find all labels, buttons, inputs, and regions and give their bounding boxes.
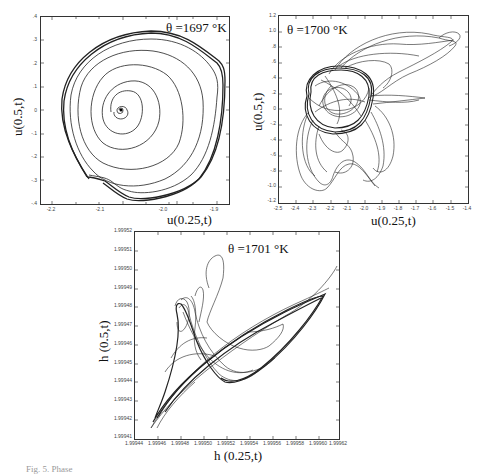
y-tick-label: -.4 <box>22 200 37 206</box>
y-tick-label: 1.99949 <box>102 284 132 290</box>
y-tick-label: 1.99942 <box>102 415 132 421</box>
y-tick-label: .3 <box>22 36 37 42</box>
x-tick-label: 1.99952 <box>217 440 235 446</box>
x-tick-label: 1.99950 <box>194 440 212 446</box>
y-axis-label: h (0.5,t) <box>96 320 112 362</box>
x-tick-label: -1.5 <box>446 205 455 211</box>
x-tick-label: -1.8 <box>394 205 403 211</box>
y-axis-label: u(0.5,t) <box>250 93 266 131</box>
x-tick-label: 1.99944 <box>125 440 143 446</box>
theta-label-1700: θ =1700 °K <box>287 22 348 38</box>
y-tick-label: 1.99943 <box>102 396 132 402</box>
y-tick-label: 1.99944 <box>102 377 132 383</box>
y-tick-label: -.2 <box>22 153 37 159</box>
x-tick-label: -1.4 <box>463 205 472 211</box>
theta-label-1697: θ =1697 °K <box>166 20 227 36</box>
phase-trajectory-1701 <box>135 232 339 439</box>
x-tick-label: -1.9 <box>377 205 386 211</box>
x-tick-label: 1.99958 <box>286 440 304 446</box>
x-tick-label: -2.5 <box>274 205 283 211</box>
y-tick-label: -.3 <box>22 177 37 183</box>
x-tick-label: -2.2 <box>47 206 56 212</box>
x-tick-label: 1.99948 <box>171 440 189 446</box>
y-tick-label: .1 <box>22 83 37 89</box>
x-axis-label: h (0.25,t) <box>214 448 262 464</box>
x-axis-label: u(0.25,t) <box>371 213 416 229</box>
y-tick-label: .2 <box>22 60 37 66</box>
y-tick-label: -.6 <box>259 151 276 157</box>
y-tick-label: 1.99948 <box>102 302 132 308</box>
y-tick-label: .4 <box>259 74 276 80</box>
y-tick-label: .8 <box>259 43 276 49</box>
y-tick-label: 1.99950 <box>102 265 132 271</box>
x-tick-label: 1.99946 <box>148 440 166 446</box>
y-tick-label: -.8 <box>259 167 276 173</box>
x-tick-label: -1.7 <box>411 205 420 211</box>
y-axis-label: u(0.5,t) <box>10 98 26 136</box>
figure-caption: Fig. 5. Phase <box>26 464 73 474</box>
x-tick-label: 1.99962 <box>329 440 347 446</box>
x-tick-label: -2.3 <box>308 205 317 211</box>
y-tick-label: 1.99951 <box>102 246 132 252</box>
y-tick-label: -1.2 <box>259 197 276 203</box>
y-tick-label: .6 <box>259 58 276 64</box>
x-tick-label: 1.99960 <box>309 440 327 446</box>
plot-area-1701 <box>134 231 340 440</box>
x-tick-label: -2.4 <box>291 205 300 211</box>
y-tick-label: -1.0 <box>259 182 276 188</box>
plot-area-1697 <box>40 16 230 205</box>
phase-trajectory-1697 <box>41 17 229 204</box>
y-tick-label: -.4 <box>259 136 276 142</box>
y-tick-label: 1.99941 <box>102 433 132 439</box>
x-tick-label: 1.99954 <box>240 440 258 446</box>
y-tick-label: 1.2 <box>259 12 276 18</box>
x-tick-label: -2.0 <box>360 205 369 211</box>
phase-trajectory-1700 <box>279 16 468 203</box>
x-axis-label: u(0.25,t) <box>167 212 212 228</box>
y-tick-label: 1.0 <box>259 27 276 33</box>
plot-area-1700 <box>278 15 469 204</box>
theta-label-1701: θ =1701 °K <box>228 241 289 257</box>
x-tick-label: 1.99956 <box>263 440 281 446</box>
y-tick-label: .4 <box>22 13 37 19</box>
y-tick-label: 1.99952 <box>102 227 132 233</box>
x-tick-label: -2.2 <box>326 205 335 211</box>
x-tick-label: -1.6 <box>428 205 437 211</box>
x-tick-label: -2.1 <box>343 205 352 211</box>
x-tick-label: -2.1 <box>96 206 105 212</box>
